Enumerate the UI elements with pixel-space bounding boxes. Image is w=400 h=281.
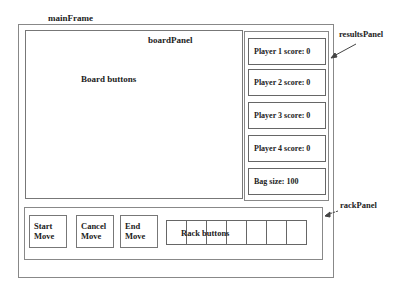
annotation-arrows [0,0,400,281]
